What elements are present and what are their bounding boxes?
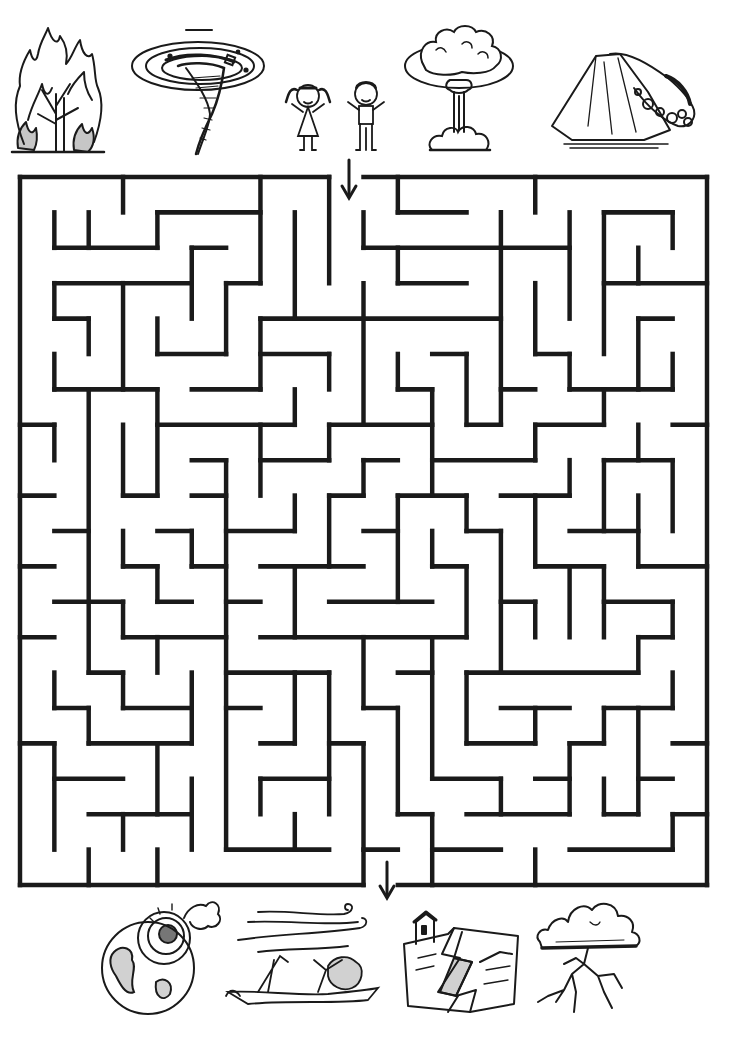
landslide-icon [548,48,700,152]
earthquake-picture: Earthquake cracked ground with house [396,908,524,1016]
earthquake-crack-icon [396,908,524,1016]
maze-walls [20,177,707,885]
meteor-earth-icon [98,888,226,1018]
children-picture: Girl and boy (start) [282,76,394,160]
wind-broken-tree-icon [218,900,386,1012]
nuclear-explosion-picture: Mushroom cloud explosion [402,22,516,154]
maze-board[interactable] [20,177,707,885]
meteor-picture: Meteor hitting Earth [98,888,226,1018]
hurricane-picture: Hurricane wind breaking trees [218,900,386,1012]
finish-arrow [377,860,397,902]
wildfire-picture: Burning tree (wildfire) [8,24,108,156]
thunderstorm-picture: Storm cloud with lightning [528,892,648,1024]
mushroom-cloud-icon [402,22,516,154]
girl-and-boy-icon [282,76,394,160]
fire-tree-icon [8,24,108,156]
landslide-picture: Landslide / volcano [548,48,700,152]
arrow-down-icon [377,860,397,902]
tornado-picture: Tornado [126,22,272,162]
tornado-icon [126,22,272,162]
storm-lightning-icon [528,892,648,1024]
